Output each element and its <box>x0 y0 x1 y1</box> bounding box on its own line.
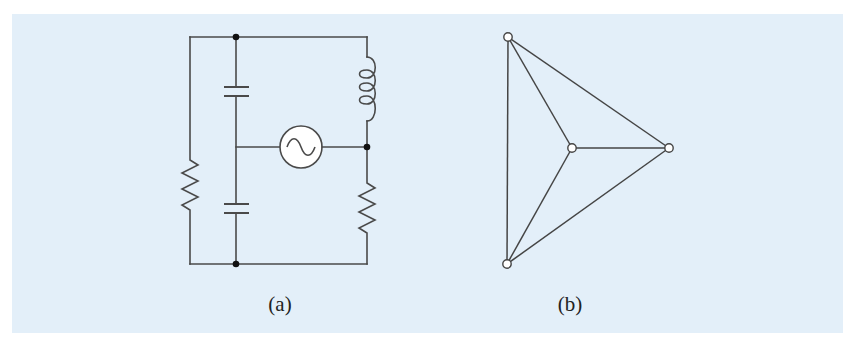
edge-topleft-center <box>508 37 572 148</box>
junction-dot-top <box>233 34 240 41</box>
figure-canvas <box>0 0 852 346</box>
edge-bottomleft-right <box>507 148 669 264</box>
caption-a: (a) <box>250 292 310 317</box>
junction-dot-right <box>364 144 371 151</box>
edge-topleft-bottomleft <box>507 37 508 264</box>
resistor-right <box>359 147 375 264</box>
caption-b: (b) <box>540 292 600 317</box>
graph-node-right <box>665 144 673 152</box>
graph-node-center <box>568 144 576 152</box>
resistor-left <box>182 37 198 264</box>
edge-topleft-right <box>508 37 669 148</box>
inductor <box>360 37 376 147</box>
graph-node-bottom-left <box>503 260 511 268</box>
graph-node-top-left <box>504 33 512 41</box>
ac-source-icon <box>280 126 322 168</box>
graph-diagram <box>503 33 673 268</box>
junction-dot-bottom <box>233 261 240 268</box>
edge-center-bottomleft <box>507 148 572 264</box>
capacitor-lower <box>224 204 249 264</box>
capacitor-upper <box>224 37 249 204</box>
circuit-diagram <box>182 34 375 268</box>
